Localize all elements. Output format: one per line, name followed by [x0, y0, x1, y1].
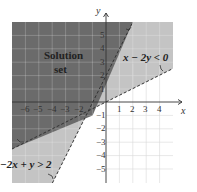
svg-text:3: 3 — [143, 104, 148, 114]
x-axis-label: x — [180, 105, 186, 116]
svg-text:−1: −1 — [96, 110, 106, 120]
svg-text:−4: −4 — [47, 104, 57, 114]
svg-text:−4: −4 — [96, 150, 106, 160]
y-axis-label: y — [95, 5, 101, 16]
svg-text:4: 4 — [100, 43, 105, 53]
svg-text:4: 4 — [157, 104, 162, 114]
svg-text:2: 2 — [100, 70, 105, 80]
inequality-graph: −6−5−4 −3−2 1234 543 21 −1−2−3 −4−5 x y … — [0, 0, 197, 192]
svg-text:−5: −5 — [33, 104, 43, 114]
svg-text:−3: −3 — [96, 137, 106, 147]
svg-text:−6: −6 — [20, 104, 30, 114]
svg-text:−3: −3 — [60, 104, 70, 114]
svg-text:−5: −5 — [96, 164, 106, 174]
svg-text:−2: −2 — [96, 123, 106, 133]
svg-text:2: 2 — [130, 104, 135, 114]
inequality-2-label: −2x + y > 2 — [0, 158, 52, 170]
solution-label-line2: set — [54, 63, 67, 75]
solution-label-line1: Solution — [44, 49, 83, 61]
svg-text:1: 1 — [117, 104, 122, 114]
inequality-1-label: x − 2y < 0 — [122, 51, 169, 63]
svg-text:−2: −2 — [74, 104, 84, 114]
svg-text:1: 1 — [100, 84, 105, 94]
svg-text:5: 5 — [100, 30, 105, 40]
svg-text:3: 3 — [100, 57, 105, 67]
